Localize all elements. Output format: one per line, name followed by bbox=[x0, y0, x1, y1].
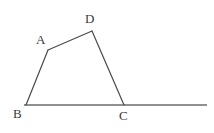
segment-d-c bbox=[92, 31, 124, 105]
figure-canvas bbox=[0, 0, 214, 133]
segment-b-a bbox=[26, 50, 48, 105]
segment-a-d bbox=[48, 31, 92, 50]
vertex-label-b: B bbox=[13, 107, 22, 120]
geometry-figure: A B C D bbox=[0, 0, 214, 133]
vertex-label-c: C bbox=[119, 109, 128, 122]
vertex-label-d: D bbox=[85, 12, 94, 25]
vertex-label-a: A bbox=[36, 33, 45, 46]
